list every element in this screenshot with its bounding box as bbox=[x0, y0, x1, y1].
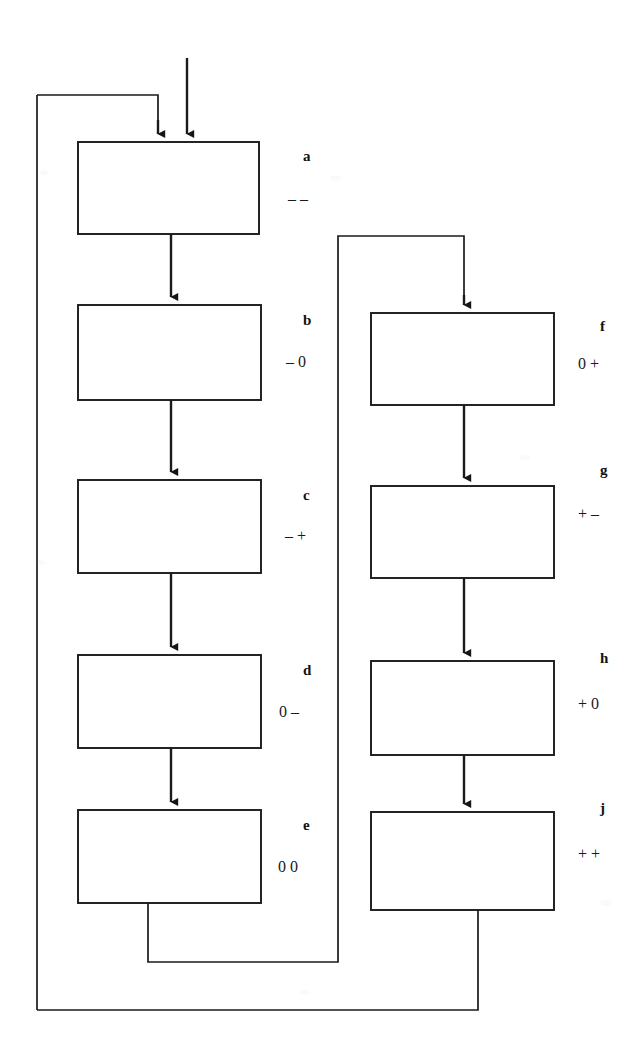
feedback-top-segment bbox=[37, 95, 158, 120]
state-code-b: – 0 bbox=[286, 353, 306, 371]
box-c bbox=[78, 480, 261, 573]
box-b bbox=[78, 305, 261, 400]
state-code-e: 0 0 bbox=[278, 858, 298, 876]
state-code-c: – + bbox=[285, 527, 306, 545]
state-code-g: + – bbox=[578, 505, 599, 523]
state-label-d: d bbox=[303, 662, 311, 679]
state-code-h: + 0 bbox=[578, 695, 599, 713]
state-code-j: + + bbox=[578, 845, 600, 863]
state-label-b: b bbox=[303, 312, 311, 329]
box-a bbox=[78, 142, 259, 234]
state-code-d: 0 – bbox=[279, 703, 299, 721]
box-e bbox=[78, 810, 261, 903]
box-j bbox=[371, 812, 554, 910]
state-label-c: c bbox=[303, 487, 310, 504]
state-label-g: g bbox=[600, 462, 608, 479]
state-label-j: j bbox=[600, 800, 605, 817]
state-label-e: e bbox=[303, 817, 310, 834]
state-label-a: a bbox=[303, 148, 311, 165]
box-h bbox=[371, 661, 554, 755]
flowchart-diagram: a b c d e f g h j – – – 0 – + 0 – 0 0 0 … bbox=[0, 0, 642, 1063]
state-label-h: h bbox=[600, 650, 608, 667]
box-d bbox=[78, 655, 261, 748]
state-label-f: f bbox=[600, 318, 605, 335]
state-code-f: 0 + bbox=[578, 355, 599, 373]
feedback-bottom-rail bbox=[37, 910, 478, 1010]
box-g bbox=[371, 486, 554, 578]
box-f bbox=[371, 313, 554, 405]
state-code-a: – – bbox=[288, 190, 308, 208]
flowchart-lines bbox=[0, 0, 642, 1063]
